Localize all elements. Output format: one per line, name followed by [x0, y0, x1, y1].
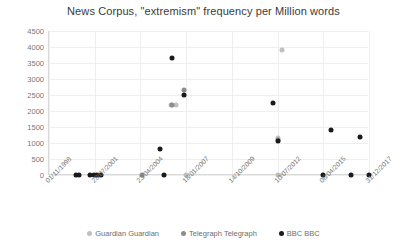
chart-title: News Corpus, "extremism" frequency per M… [0, 5, 407, 17]
y-axis-tick-label: 3500 [4, 59, 44, 68]
data-point [280, 48, 285, 53]
gridline-horizontal [49, 111, 368, 112]
y-axis-tick-label: 4500 [4, 27, 44, 36]
gridline-horizontal [49, 95, 368, 96]
y-axis-tick-label: 4000 [4, 43, 44, 52]
legend-marker-icon [181, 231, 186, 236]
data-point [169, 102, 174, 107]
legend-item[interactable]: BBC BBC [279, 229, 320, 238]
gridline-horizontal [49, 63, 368, 64]
gridline-horizontal [49, 47, 368, 48]
gridline-vertical [140, 31, 141, 174]
gridline-vertical [369, 31, 370, 174]
gridline-vertical [49, 31, 50, 174]
gridline-horizontal [49, 143, 368, 144]
data-point [328, 128, 333, 133]
y-axis-tick-label: 1000 [4, 139, 44, 148]
y-axis-tick-label: 1500 [4, 123, 44, 132]
gridline-vertical [278, 31, 279, 174]
y-axis-tick-label: 2500 [4, 91, 44, 100]
scatter-chart: News Corpus, "extremism" frequency per M… [0, 0, 407, 242]
gridline-horizontal [49, 31, 368, 32]
data-point [358, 134, 363, 139]
plot-area [48, 31, 368, 175]
legend-marker-icon [87, 231, 92, 236]
data-point [276, 139, 281, 144]
y-axis-tick-label: 2000 [4, 107, 44, 116]
data-point [161, 173, 166, 178]
legend-label: BBC BBC [287, 229, 320, 238]
gridline-vertical [95, 31, 96, 174]
data-point [349, 173, 354, 178]
data-point [182, 93, 187, 98]
data-point [270, 101, 275, 106]
data-point [169, 56, 174, 61]
legend-label: Guardian Guardian [95, 229, 159, 238]
y-axis-tick-label: 0 [4, 171, 44, 180]
gridline-horizontal [49, 127, 368, 128]
data-point [157, 147, 162, 152]
data-point [77, 173, 82, 178]
legend-item[interactable]: Guardian Guardian [87, 229, 159, 238]
gridline-horizontal [49, 79, 368, 80]
gridline-vertical [232, 31, 233, 174]
legend-item[interactable]: Telegraph Telegraph [181, 229, 257, 238]
legend-marker-icon [279, 231, 284, 236]
y-axis-tick-label: 500 [4, 155, 44, 164]
chart-legend: Guardian GuardianTelegraph TelegraphBBC … [0, 229, 407, 238]
y-axis-tick-label: 3000 [4, 75, 44, 84]
legend-label: Telegraph Telegraph [189, 229, 257, 238]
gridline-vertical [186, 31, 187, 174]
gridline-vertical [323, 31, 324, 174]
